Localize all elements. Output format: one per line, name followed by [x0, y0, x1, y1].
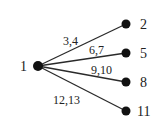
node-label: 11 [137, 104, 150, 119]
edge-label: 9,10 [91, 63, 112, 77]
node-8 [122, 78, 131, 87]
node-1 [33, 61, 43, 71]
node-label: 5 [140, 46, 147, 61]
tree-diagram: 3,46,79,1012,13125811 [0, 0, 161, 123]
edges [38, 24, 126, 111]
edge-label: 12,13 [53, 93, 80, 107]
edge-label: 3,4 [63, 34, 78, 48]
edge-1-11 [38, 66, 126, 111]
edge-label: 6,7 [89, 43, 104, 57]
node-2 [122, 20, 131, 29]
node-5 [122, 49, 131, 58]
node-label: 2 [140, 17, 147, 32]
node-label: 1 [20, 59, 27, 74]
node-label: 8 [140, 75, 147, 90]
node-11 [122, 107, 131, 116]
edge-1-8 [38, 66, 126, 82]
